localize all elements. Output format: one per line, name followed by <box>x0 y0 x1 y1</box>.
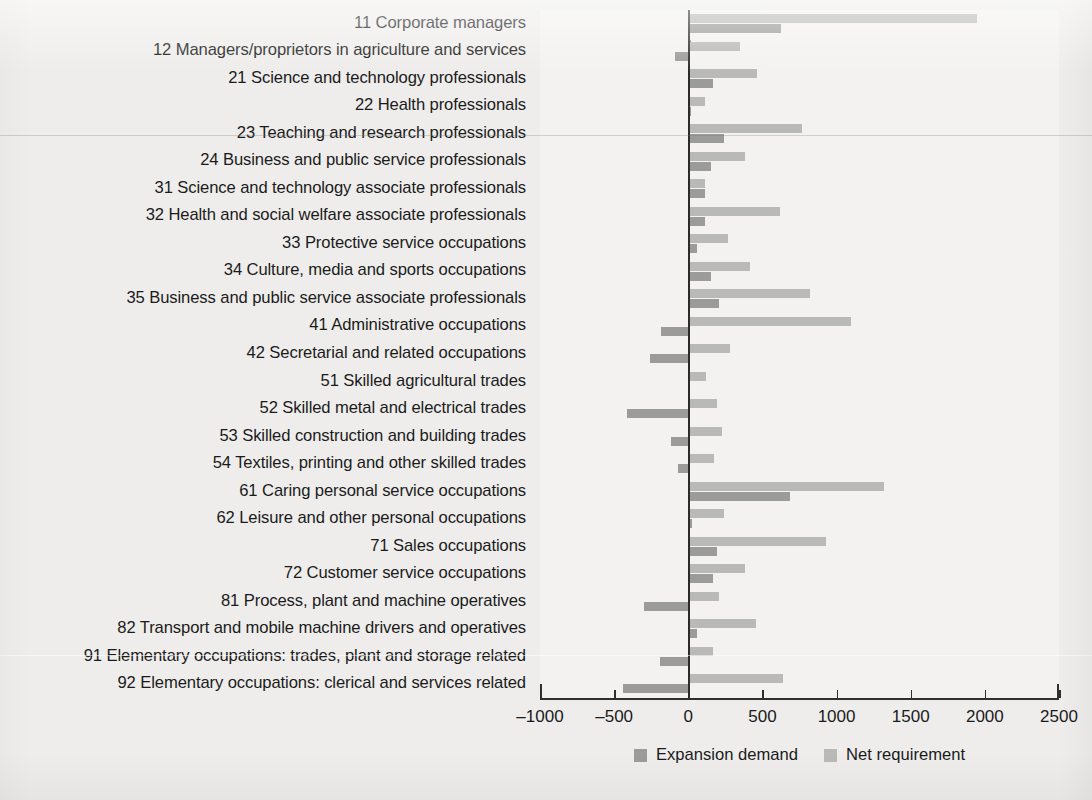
category-axis-labels: 11 Corporate managers12 Managers/proprie… <box>0 10 534 698</box>
category-label: 91 Elementary occupations: trades, plant… <box>84 648 526 665</box>
bar-net-requirement <box>688 674 783 683</box>
plot-area <box>540 10 1059 698</box>
category-label: 42 Secretarial and related occupations <box>247 345 526 362</box>
axis-tick <box>762 690 764 698</box>
axis-spine <box>540 698 1059 700</box>
bar-net-requirement <box>688 207 780 216</box>
bar-expansion-demand <box>688 299 718 308</box>
category-label: 22 Health professionals <box>355 97 526 114</box>
legend-label-expansion-demand: Expansion demand <box>656 745 798 765</box>
bar-expansion-demand <box>688 574 713 583</box>
legend-item-expansion-demand[interactable]: Expansion demand <box>634 745 798 765</box>
zero-axis-line <box>688 10 690 698</box>
bar-expansion-demand <box>688 217 704 226</box>
bar-net-requirement <box>688 289 810 298</box>
bar-net-requirement <box>688 537 826 546</box>
bar-expansion-demand <box>671 437 688 446</box>
axis-tick-label: 2000 <box>966 707 1004 727</box>
bar-expansion-demand <box>660 657 688 666</box>
category-label: 71 Sales occupations <box>370 538 526 555</box>
bar-net-requirement <box>688 564 745 573</box>
axis-tick-label: –500 <box>595 707 633 727</box>
bar-expansion-demand <box>650 354 688 363</box>
axis-tick-label: 500 <box>748 707 776 727</box>
plot-background <box>540 10 1059 698</box>
bar-expansion-demand <box>688 189 705 198</box>
category-label: 12 Managers/proprietors in agriculture a… <box>153 42 526 59</box>
axis-tick-label: 1500 <box>892 707 930 727</box>
bar-net-requirement <box>688 482 884 491</box>
bar-net-requirement <box>688 344 730 353</box>
bar-net-requirement <box>688 124 802 133</box>
axis-tick <box>614 690 616 698</box>
category-label: 51 Skilled agricultural trades <box>321 373 526 390</box>
category-label: 24 Business and public service professio… <box>200 152 526 169</box>
bar-expansion-demand <box>644 602 688 611</box>
axis-tick-label: 1000 <box>818 707 856 727</box>
category-label: 53 Skilled construction and building tra… <box>219 428 526 445</box>
category-label: 62 Leisure and other personal occupation… <box>216 510 526 527</box>
category-label: 92 Elementary occupations: clerical and … <box>117 675 526 692</box>
category-label: 52 Skilled metal and electrical trades <box>260 400 526 417</box>
bar-expansion-demand <box>688 272 711 281</box>
category-label: 23 Teaching and research professionals <box>237 125 526 142</box>
bar-expansion-demand <box>688 79 712 88</box>
bar-expansion-demand <box>688 134 724 143</box>
bar-expansion-demand <box>678 464 688 473</box>
category-label: 31 Science and technology associate prof… <box>155 180 526 197</box>
bar-expansion-demand <box>623 684 688 693</box>
net-requirement-swatch <box>824 749 837 762</box>
chart-legend: Expansion demand Net requirement <box>540 745 1059 765</box>
bar-net-requirement <box>688 97 704 106</box>
category-label: 81 Process, plant and machine operatives <box>221 593 526 610</box>
axis-tick <box>911 690 913 698</box>
bar-chart: 11 Corporate managers12 Managers/proprie… <box>0 0 1092 800</box>
bar-expansion-demand <box>688 492 790 501</box>
bar-net-requirement <box>688 69 757 78</box>
legend-item-net-requirement[interactable]: Net requirement <box>824 745 965 765</box>
axis-tick-label: 2500 <box>1040 707 1078 727</box>
category-label: 21 Science and technology professionals <box>228 70 526 87</box>
category-label: 72 Customer service occupations <box>284 565 526 582</box>
bar-net-requirement <box>688 179 704 188</box>
bar-net-requirement <box>688 619 756 628</box>
category-label: 82 Transport and mobile machine drivers … <box>117 620 526 637</box>
category-label: 54 Textiles, printing and other skilled … <box>213 455 526 472</box>
category-label: 11 Corporate managers <box>354 15 526 32</box>
bar-net-requirement <box>688 509 724 518</box>
category-label: 33 Protective service occupations <box>282 235 526 252</box>
bar-expansion-demand <box>688 547 717 556</box>
expansion-demand-swatch <box>634 749 647 762</box>
bar-net-requirement <box>688 234 728 243</box>
bar-expansion-demand <box>688 162 710 171</box>
bar-net-requirement <box>688 317 851 326</box>
axis-tick-label: –1000 <box>516 707 563 727</box>
axis-tick <box>837 690 839 698</box>
bar-net-requirement <box>688 42 740 51</box>
category-label: 35 Business and public service associate… <box>126 290 526 307</box>
bar-net-requirement <box>688 152 744 161</box>
category-label: 34 Culture, media and sports occupations <box>224 262 526 279</box>
bar-net-requirement <box>688 399 717 408</box>
bar-net-requirement <box>688 14 977 23</box>
bar-net-requirement <box>688 647 712 656</box>
bar-net-requirement <box>688 427 722 436</box>
bar-net-requirement <box>688 372 706 381</box>
category-label: 32 Health and social welfare associate p… <box>146 207 526 224</box>
axis-tick <box>985 690 987 698</box>
bar-expansion-demand <box>688 24 781 33</box>
category-label: 61 Caring personal service occupations <box>239 483 526 500</box>
bar-expansion-demand <box>627 409 689 418</box>
category-label: 41 Administrative occupations <box>309 317 526 334</box>
bar-net-requirement <box>688 454 714 463</box>
bar-expansion-demand <box>661 327 688 336</box>
axis-tick <box>1059 690 1061 698</box>
bar-expansion-demand <box>675 52 688 61</box>
axis-tick <box>540 690 542 698</box>
axis-tick-label: 0 <box>684 707 693 727</box>
bar-net-requirement <box>688 262 750 271</box>
legend-label-net-requirement: Net requirement <box>846 745 965 765</box>
bar-net-requirement <box>688 592 719 601</box>
